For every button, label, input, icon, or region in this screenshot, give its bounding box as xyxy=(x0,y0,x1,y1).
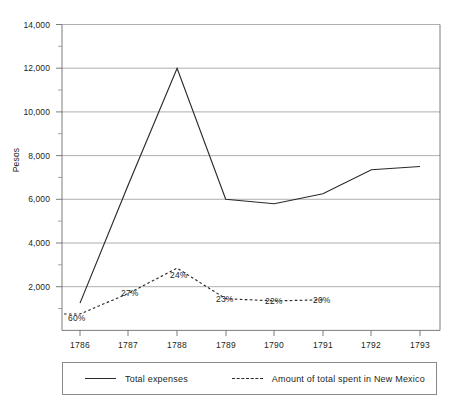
legend-entry-new-mexico: Amount of total spent in New Mexico xyxy=(232,374,425,384)
annotation-1791-percent: 20% xyxy=(313,295,331,305)
y-major-ticks xyxy=(56,25,62,287)
legend-solid-line-icon xyxy=(85,378,116,379)
annotation-1786-percent: 60% xyxy=(68,313,86,323)
annotation-1789-percent: 23% xyxy=(216,294,234,304)
legend-entry-total-expenses: Total expenses xyxy=(85,374,188,384)
y-tick-label-4000: 4,000 xyxy=(6,238,50,248)
x-tick-label-1788: 1788 xyxy=(154,340,200,350)
y-tick-label-8000: 8,000 xyxy=(6,151,50,161)
annotation-1790-percent: 22% xyxy=(265,296,283,306)
x-tick-label-1791: 1791 xyxy=(300,340,346,350)
series-new-mexico-line xyxy=(64,268,323,314)
series-total-expenses-line xyxy=(80,68,420,303)
legend-label-new-mexico: Amount of total spent in New Mexico xyxy=(272,374,425,384)
chart-legend: Total expenses Amount of total spent in … xyxy=(62,362,437,395)
x-tick-label-1786: 1786 xyxy=(57,340,103,350)
gridlines xyxy=(62,25,440,287)
y-tick-label-6000: 6,000 xyxy=(6,194,50,204)
legend-label-total-expenses: Total expenses xyxy=(125,374,188,384)
x-tick-label-1790: 1790 xyxy=(251,340,297,350)
x-tick-label-1793: 1793 xyxy=(397,340,443,350)
x-ticks xyxy=(80,330,420,336)
legend-dashed-line-icon xyxy=(232,378,263,379)
x-tick-label-1789: 1789 xyxy=(203,340,249,350)
annotation-1787-percent: 27% xyxy=(121,288,139,298)
y-tick-label-12000: 12,000 xyxy=(6,63,50,73)
annotation-1788-percent: 24% xyxy=(170,270,188,280)
line-chart-figure: Pesos 14,000 12,000 10,000 8,000 6,000 4… xyxy=(0,0,449,405)
axis-lines xyxy=(62,25,440,331)
x-tick-label-1792: 1792 xyxy=(348,340,394,350)
y-tick-label-14000: 14,000 xyxy=(6,20,50,30)
y-tick-label-2000: 2,000 xyxy=(6,282,50,292)
y-tick-label-10000: 10,000 xyxy=(6,107,50,117)
x-tick-label-1787: 1787 xyxy=(105,340,151,350)
y-minor-ticks xyxy=(58,46,62,308)
